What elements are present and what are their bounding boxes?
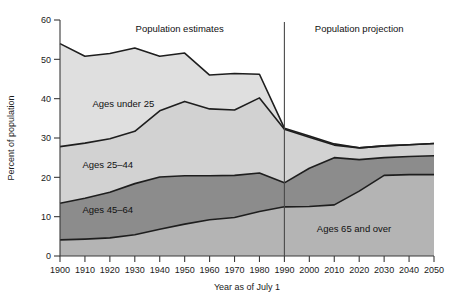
x-tick-label: 1950 [175,265,195,275]
y-tick-label: 10 [41,212,51,222]
ages-65-over-label: Ages 65 and over [317,223,391,234]
ages-45-64-label: Ages 45–64 [82,204,133,215]
x-tick-label: 1920 [100,265,120,275]
x-tick-label: 2050 [424,265,444,275]
x-tick-label: 1980 [249,265,269,275]
projection-label: Population projection [315,23,404,34]
population-age-distribution-chart: 0102030405060190019101920193019401950196… [0,0,462,307]
x-tick-label: 1960 [200,265,220,275]
x-tick-label: 2020 [349,265,369,275]
x-tick-label: 1910 [75,265,95,275]
ages-under-25-label: Ages under 25 [92,98,154,109]
x-tick-label: 2000 [299,265,319,275]
x-tick-label: 1940 [150,265,170,275]
estimates-label: Population estimates [136,23,224,34]
y-tick-label: 40 [41,94,51,104]
x-axis-title: Year as of July 1 [214,282,280,292]
x-tick-label: 2030 [374,265,394,275]
x-tick-label: 1990 [274,265,294,275]
y-tick-label: 50 [41,55,51,65]
y-tick-label: 0 [46,251,51,261]
ages-25-44-label: Ages 25–44 [82,159,133,170]
x-tick-label: 1970 [225,265,245,275]
x-tick-label: 2040 [399,265,419,275]
x-tick-label: 2010 [324,265,344,275]
y-tick-label: 30 [41,133,51,143]
y-tick-label: 60 [41,15,51,25]
x-tick-label: 1900 [50,265,70,275]
x-tick-label: 1930 [125,265,145,275]
y-tick-label: 20 [41,173,51,183]
y-axis-title: Percent of population [6,95,16,180]
